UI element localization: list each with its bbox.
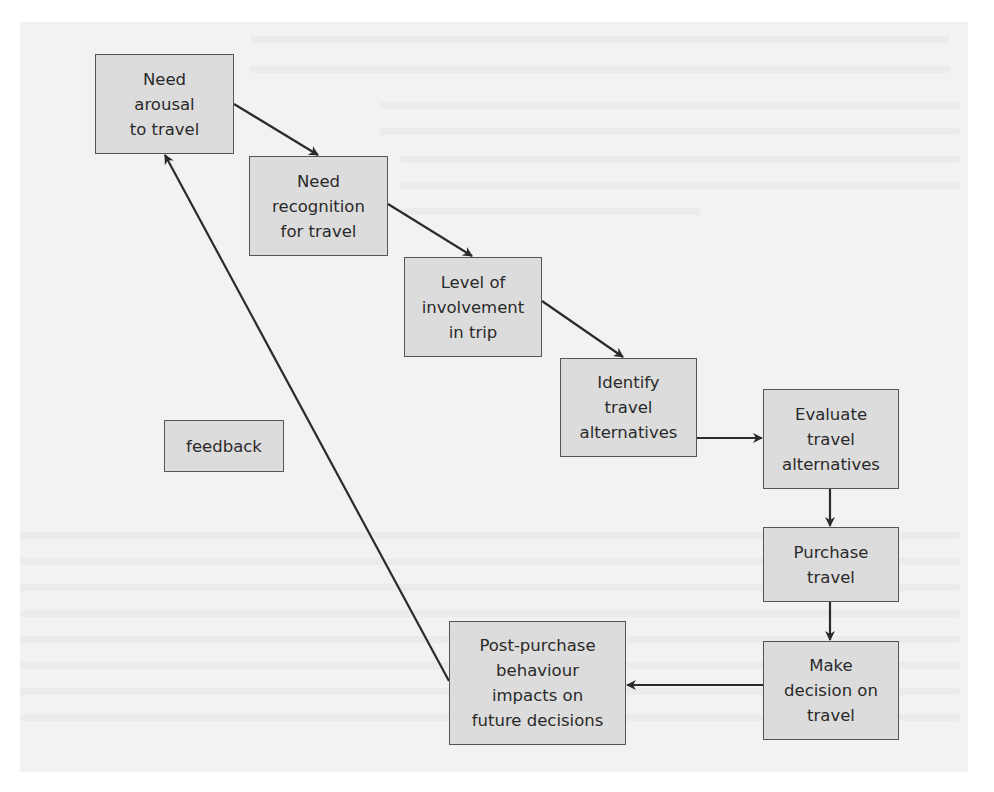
node-make-decision: Make decision on travel <box>763 641 899 740</box>
node-need-arousal: Need arousal to travel <box>95 54 234 154</box>
arrow-need-recognition-to-level-involvement <box>388 204 472 256</box>
node-level-involvement: Level of involvement in trip <box>404 257 542 357</box>
node-identify-alternatives: Identify travel alternatives <box>560 358 697 457</box>
arrow-level-involvement-to-identify-alternatives <box>542 301 623 357</box>
arrow-need-arousal-to-need-recognition <box>234 104 318 155</box>
node-post-purchase: Post-purchase behaviour impacts on futur… <box>449 621 626 745</box>
node-evaluate-alternatives: Evaluate travel alternatives <box>763 389 899 489</box>
node-purchase-travel: Purchase travel <box>763 527 899 602</box>
node-feedback: feedback <box>164 420 284 472</box>
node-need-recognition: Need recognition for travel <box>249 156 388 256</box>
